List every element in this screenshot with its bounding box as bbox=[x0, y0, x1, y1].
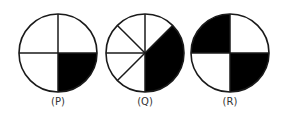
label-r: (R) bbox=[210, 96, 250, 107]
circle-figure-r bbox=[191, 14, 269, 92]
label-q: (Q) bbox=[125, 96, 165, 107]
circle-figure-q bbox=[106, 14, 184, 92]
circle-figure-p bbox=[19, 14, 97, 92]
figure-panel: (P) (Q) (R) bbox=[0, 0, 285, 119]
label-p: (P) bbox=[38, 96, 78, 107]
